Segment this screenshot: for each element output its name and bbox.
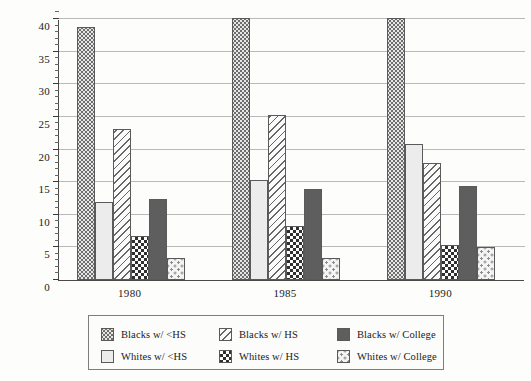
y-minor-tick (55, 253, 59, 254)
y-minor-tick (55, 201, 59, 202)
y-minor-tick (55, 168, 59, 169)
legend-item: Whites w/ <HS (89, 350, 207, 363)
bar-chart: 0510152025303540 198019851990 (0, 0, 531, 305)
y-minor-tick (55, 77, 59, 78)
gridline (59, 18, 525, 19)
y-minor-tick (55, 142, 59, 143)
bar-group-1980 (77, 20, 185, 280)
bar-1980-whites-w-college (167, 258, 185, 280)
y-minor-tick (55, 155, 59, 156)
legend-row-2: Whites w/ <HSWhites w/ HSWhites w/ Colle… (89, 345, 443, 367)
y-minor-tick (55, 135, 59, 136)
y-major-tick (53, 246, 59, 247)
y-major-tick (53, 116, 59, 117)
y-minor-tick (55, 64, 59, 65)
x-axis-tick-label: 1985 (273, 287, 296, 299)
y-minor-tick (55, 233, 59, 234)
bar-1990-whites-w-hs (405, 144, 423, 280)
legend-item: Blacks w/ HS (207, 328, 325, 341)
y-minor-tick (55, 207, 59, 208)
x-axis-tick-label: 1980 (118, 287, 141, 299)
legend-swatch-icon (337, 350, 350, 363)
y-minor-tick (55, 240, 59, 241)
y-minor-tick (55, 272, 59, 273)
legend-item: Blacks w/ College (325, 328, 443, 341)
bar-1980-blacks-w-college (149, 199, 167, 280)
y-minor-tick (55, 103, 59, 104)
y-minor-tick (55, 194, 59, 195)
chart-legend: Blacks w/ <HSBlacks w/ HSBlacks w/ Colle… (88, 315, 444, 370)
y-minor-tick (55, 31, 59, 32)
bar-1990-whites-w-college (477, 247, 495, 280)
y-major-tick (53, 18, 59, 19)
y-major-tick (53, 214, 59, 215)
bar-1985-whites-w-hs (286, 226, 304, 280)
legend-swatch-icon (219, 350, 232, 363)
legend-item: Blacks w/ <HS (89, 328, 207, 341)
legend-swatch-icon (101, 328, 114, 341)
bar-1985-blacks-w-hs (232, 18, 250, 280)
legend-item: Whites w/ College (325, 350, 443, 363)
y-minor-tick (55, 188, 59, 189)
y-major-tick (53, 51, 59, 52)
bar-1980-whites-w-hs (131, 236, 149, 280)
legend-label: Whites w/ College (357, 351, 437, 362)
y-minor-tick (55, 44, 59, 45)
bar-1980-blacks-w-hs (113, 129, 131, 280)
y-major-tick (53, 181, 59, 182)
legend-row-1: Blacks w/ <HSBlacks w/ HSBlacks w/ Colle… (89, 323, 443, 345)
bar-1990-blacks-w-hs (423, 163, 441, 280)
y-minor-tick (55, 259, 59, 260)
y-minor-tick (55, 122, 59, 123)
bar-1990-blacks-w-hs (387, 18, 405, 280)
plot-area: 0510152025303540 (58, 20, 524, 281)
x-axis-tick-label: 1990 (429, 287, 452, 299)
bar-1980-blacks-w-hs (77, 27, 95, 280)
bar-1985-blacks-w-college (304, 189, 322, 280)
legend-label: Whites w/ <HS (121, 351, 187, 362)
y-minor-tick (55, 25, 59, 26)
y-minor-tick (55, 227, 59, 228)
y-minor-tick (55, 11, 59, 12)
y-minor-tick (55, 129, 59, 130)
legend-swatch-icon (219, 328, 232, 341)
legend-label: Blacks w/ College (357, 329, 436, 340)
y-major-tick (53, 83, 59, 84)
y-minor-tick (55, 38, 59, 39)
y-minor-tick (55, 90, 59, 91)
bar-1990-blacks-w-college (459, 186, 477, 280)
y-major-tick (53, 149, 59, 150)
y-minor-tick (55, 109, 59, 110)
bar-group-1985 (232, 20, 340, 280)
legend-swatch-icon (337, 328, 350, 341)
bar-1990-whites-w-hs (441, 245, 459, 280)
y-minor-tick (55, 175, 59, 176)
y-minor-tick (55, 70, 59, 71)
legend-swatch-icon (101, 350, 114, 363)
y-minor-tick (55, 162, 59, 163)
y-minor-tick (55, 220, 59, 221)
legend-label: Whites w/ HS (239, 351, 299, 362)
legend-item: Whites w/ HS (207, 350, 325, 363)
legend-label: Blacks w/ <HS (121, 329, 186, 340)
y-minor-tick (55, 96, 59, 97)
bar-1980-whites-w-hs (95, 202, 113, 280)
y-minor-tick (55, 266, 59, 267)
bar-1985-whites-w-hs (250, 180, 268, 280)
bar-1985-blacks-w-hs (268, 115, 286, 280)
y-minor-tick (55, 57, 59, 58)
legend-label: Blacks w/ HS (239, 329, 298, 340)
bar-group-1990 (387, 20, 495, 280)
bar-1985-whites-w-college (322, 258, 340, 280)
y-major-tick (53, 279, 59, 280)
